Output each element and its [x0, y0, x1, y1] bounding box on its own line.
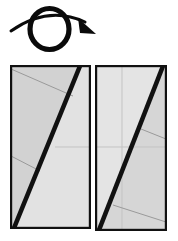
figure-root: Rotation transformation diagram A curved…	[0, 0, 178, 241]
rotation-arrow-icon	[11, 9, 96, 50]
diagram-canvas	[0, 0, 178, 241]
right-panel	[95, 65, 167, 231]
left-panel	[10, 65, 91, 229]
rotation-arrowhead-icon	[78, 18, 96, 34]
panel-gap	[91, 62, 95, 236]
rotation-arc-icon	[11, 15, 85, 31]
